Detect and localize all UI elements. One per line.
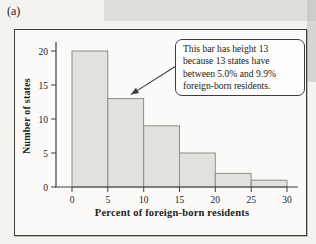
svg-text:15: 15 xyxy=(175,195,185,205)
y-axis-title: Number of states xyxy=(21,78,32,154)
svg-text:20: 20 xyxy=(211,195,221,205)
svg-text:20: 20 xyxy=(39,47,49,57)
x-axis-title: Percent of foreign-born residents xyxy=(52,207,292,218)
svg-text:0: 0 xyxy=(43,183,48,193)
annotation-line-2: because 13 states have xyxy=(183,55,300,67)
svg-text:25: 25 xyxy=(246,195,256,205)
svg-text:5: 5 xyxy=(43,149,48,159)
annotation-line-1: This bar has height 13 xyxy=(183,43,300,55)
svg-text:10: 10 xyxy=(39,115,49,125)
figure-page: (a) 05101520051015202530 Number of state… xyxy=(0,0,316,244)
annotation-line-4: foreign-born residents. xyxy=(183,80,300,92)
svg-text:15: 15 xyxy=(39,81,49,91)
annotation-line-3: between 5.0% and 9.9% xyxy=(183,68,300,80)
svg-text:10: 10 xyxy=(139,195,149,205)
svg-text:30: 30 xyxy=(282,195,292,205)
annotation-callout: This bar has height 13 because 13 states… xyxy=(175,39,305,96)
svg-text:0: 0 xyxy=(70,195,75,205)
svg-text:5: 5 xyxy=(105,195,110,205)
